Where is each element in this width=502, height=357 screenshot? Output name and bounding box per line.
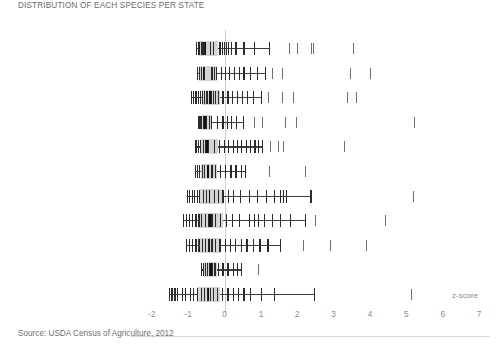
data-point-tick <box>208 140 209 153</box>
data-point-tick <box>305 214 306 227</box>
outlier-tick <box>356 92 357 103</box>
data-point-tick <box>225 239 226 252</box>
data-point-tick <box>242 91 243 104</box>
data-point-tick <box>195 91 196 104</box>
data-point-tick <box>237 91 238 104</box>
data-point-tick <box>238 288 239 301</box>
data-point-tick <box>254 42 255 55</box>
data-point-tick <box>194 190 195 203</box>
data-point-tick <box>211 239 212 252</box>
x-tick-label-0: 0 <box>222 310 227 319</box>
outlier-tick <box>272 68 273 79</box>
boxplot-row: Horses and ponies <box>130 283 490 305</box>
data-point-tick <box>229 67 230 80</box>
median-tick <box>207 165 209 178</box>
data-point-tick <box>202 239 203 252</box>
data-point-tick <box>269 42 270 55</box>
data-point-tick <box>231 116 232 129</box>
data-point-tick <box>262 140 263 153</box>
outlier-tick <box>353 43 354 54</box>
data-point-tick <box>221 67 222 80</box>
data-point-tick <box>241 239 242 252</box>
data-point-tick <box>228 42 229 55</box>
data-point-tick <box>259 239 260 252</box>
data-point-tick <box>217 116 218 129</box>
data-point-tick <box>207 263 208 276</box>
data-point-tick <box>225 165 226 178</box>
data-point-tick <box>203 190 204 203</box>
data-point-tick <box>192 190 193 203</box>
outlier-tick <box>385 215 386 226</box>
x-tick-label-6: 6 <box>440 310 445 319</box>
data-point-tick <box>235 239 236 252</box>
data-point-tick <box>202 91 203 104</box>
data-point-tick <box>171 288 172 301</box>
data-point-tick <box>218 91 219 104</box>
data-point-tick <box>227 263 228 276</box>
data-point-tick <box>220 214 221 227</box>
data-point-tick <box>189 214 190 227</box>
data-point-tick <box>211 214 212 227</box>
data-point-tick <box>283 190 284 203</box>
data-point-tick <box>206 116 207 129</box>
outlier-tick <box>289 43 290 54</box>
outlier-tick <box>350 68 351 79</box>
median-tick <box>204 116 206 129</box>
data-point-tick <box>227 91 228 104</box>
outlier-tick <box>297 43 298 54</box>
data-point-tick <box>197 288 198 301</box>
data-point-tick <box>232 91 233 104</box>
data-point-tick <box>226 42 227 55</box>
outlier-tick <box>313 43 314 54</box>
data-point-tick <box>210 288 211 301</box>
data-point-tick <box>254 140 255 153</box>
boxplot-row: Sheep and lambs <box>130 86 490 108</box>
data-point-tick <box>193 288 194 301</box>
data-point-tick <box>206 91 207 104</box>
boxplot-row: Colonies of bees <box>130 160 490 182</box>
data-point-tick <box>205 239 206 252</box>
data-point-tick <box>246 140 247 153</box>
boxplot-row: Milk cows <box>130 135 490 157</box>
data-point-tick <box>253 239 254 252</box>
median-tick <box>206 140 208 153</box>
outlier-tick <box>285 117 286 128</box>
data-point-tick <box>195 214 196 227</box>
data-point-tick <box>280 190 281 203</box>
data-point-tick <box>228 190 229 203</box>
data-point-tick <box>195 140 196 153</box>
data-point-tick <box>215 214 216 227</box>
outlier-tick <box>269 166 270 177</box>
data-point-tick <box>233 263 234 276</box>
data-point-tick <box>314 288 315 301</box>
data-point-tick <box>204 165 205 178</box>
data-point-tick <box>219 42 220 55</box>
data-point-tick <box>310 190 311 203</box>
outlier-tick <box>366 240 367 251</box>
outlier-tick <box>296 117 297 128</box>
data-point-tick <box>222 116 223 129</box>
data-point-tick <box>169 288 170 301</box>
outlier-tick <box>347 92 348 103</box>
data-point-tick <box>272 214 273 227</box>
data-point-tick <box>185 288 186 301</box>
data-point-tick <box>290 214 291 227</box>
data-point-tick <box>265 67 266 80</box>
data-point-tick <box>213 288 214 301</box>
median-tick <box>209 239 211 252</box>
data-point-tick <box>195 165 196 178</box>
data-point-tick <box>211 165 212 178</box>
outlier-tick <box>283 141 284 152</box>
data-point-tick <box>258 214 259 227</box>
data-point-tick <box>274 190 275 203</box>
boxplot-row: Cattle and calves <box>130 209 490 231</box>
data-point-tick <box>192 214 193 227</box>
data-point-tick <box>264 214 265 227</box>
data-point-tick <box>236 116 237 129</box>
data-point-tick <box>286 190 287 203</box>
data-point-tick <box>211 116 212 129</box>
data-point-tick <box>233 288 234 301</box>
data-point-tick <box>203 263 204 276</box>
outlier-tick <box>303 240 304 251</box>
data-point-tick <box>246 239 247 252</box>
